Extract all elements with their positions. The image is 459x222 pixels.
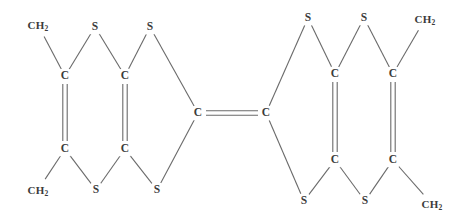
double-bond bbox=[206, 111, 258, 115]
atom-label-ch2-bl: CH2 bbox=[26, 184, 51, 197]
bond-line bbox=[368, 25, 390, 67]
atom-label-c-r-br: C bbox=[387, 153, 399, 167]
atom-label-s-b1: S bbox=[91, 183, 101, 197]
bond-line bbox=[154, 34, 194, 106]
atom-label-s-b4: S bbox=[360, 194, 370, 208]
single-bond bbox=[368, 25, 390, 67]
single-bond bbox=[340, 166, 361, 194]
atom-subscript: 2 bbox=[44, 24, 48, 33]
single-bond bbox=[154, 34, 194, 106]
atom-label-s-t2: S bbox=[145, 20, 155, 34]
single-bond bbox=[45, 156, 60, 179]
atom-label-c-l-bl: C bbox=[59, 142, 71, 156]
double-bond bbox=[63, 84, 67, 141]
atom-label-c-mid-r: C bbox=[260, 106, 272, 120]
atom-label-s-t4: S bbox=[359, 11, 369, 25]
bond-line bbox=[99, 34, 121, 69]
bond-line bbox=[44, 36, 61, 68]
single-bond bbox=[397, 30, 418, 67]
bond-line bbox=[311, 25, 331, 67]
atom-label-ch2-tl: CH2 bbox=[26, 19, 51, 32]
atom-label-c-l-br: C bbox=[119, 142, 131, 156]
bond-line bbox=[129, 34, 147, 69]
bond-line bbox=[161, 120, 194, 183]
atom-label-s-b3: S bbox=[299, 194, 309, 208]
single-bond bbox=[269, 120, 301, 193]
atom-label-c-l-tr: C bbox=[119, 69, 131, 83]
bond-line bbox=[130, 155, 152, 183]
atom-label-s-b2: S bbox=[152, 183, 162, 197]
bond-line bbox=[269, 120, 301, 193]
bond-line bbox=[70, 155, 91, 183]
single-bond bbox=[269, 25, 305, 105]
atom-subscript: 2 bbox=[431, 18, 435, 27]
atom-label-c-l-tl: C bbox=[59, 69, 71, 83]
atom-label-ch2-br: CH2 bbox=[420, 198, 445, 211]
single-bond bbox=[101, 156, 121, 184]
double-bond bbox=[333, 82, 337, 152]
atom-subscript: 2 bbox=[438, 203, 442, 212]
atom-label-c-r-tr: C bbox=[387, 67, 399, 81]
bond-line bbox=[101, 156, 121, 184]
atom-label-c-r-bl: C bbox=[329, 153, 341, 167]
bond-line bbox=[45, 156, 60, 179]
atom-label-c-r-tl: C bbox=[329, 67, 341, 81]
single-bond bbox=[370, 167, 389, 195]
single-bond bbox=[99, 34, 121, 69]
bond-line bbox=[340, 166, 361, 194]
bond-line bbox=[398, 166, 423, 194]
atom-symbol: CH bbox=[422, 198, 439, 210]
bond-line bbox=[309, 166, 330, 194]
single-bond bbox=[129, 34, 147, 69]
single-bond bbox=[69, 34, 91, 69]
bond-line bbox=[69, 34, 91, 69]
bond-line bbox=[370, 167, 389, 195]
atom-symbol: CH bbox=[415, 13, 432, 25]
single-bond bbox=[44, 36, 61, 68]
single-bond bbox=[130, 155, 152, 183]
atom-label-ch2-tr: CH2 bbox=[413, 13, 438, 26]
atom-symbol: CH bbox=[28, 19, 45, 31]
double-bond bbox=[123, 84, 127, 141]
atom-label-s-t1: S bbox=[90, 20, 100, 34]
single-bond bbox=[309, 166, 330, 194]
atom-label-s-t3: S bbox=[303, 11, 313, 25]
atom-symbol: CH bbox=[28, 184, 45, 196]
atom-label-c-mid-l: C bbox=[192, 106, 204, 120]
structure-diagram-canvas: CH2SSCCCCCH2SSCCSSCH2CCCCSSCH2 bbox=[0, 0, 459, 222]
single-bond bbox=[161, 120, 194, 183]
bond-layer bbox=[44, 25, 423, 195]
single-bond bbox=[398, 166, 423, 194]
bond-line bbox=[339, 25, 361, 67]
single-bond bbox=[311, 25, 331, 67]
bond-network bbox=[0, 0, 459, 222]
atom-subscript: 2 bbox=[44, 189, 48, 198]
bond-line bbox=[269, 25, 305, 105]
bond-line bbox=[397, 30, 418, 67]
double-bond bbox=[391, 82, 395, 152]
single-bond bbox=[339, 25, 361, 67]
single-bond bbox=[70, 155, 91, 183]
